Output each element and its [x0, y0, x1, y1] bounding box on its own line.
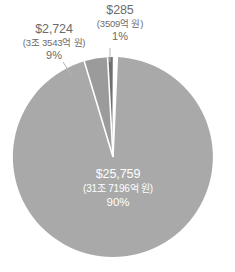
- callout-1-percent: 1%: [73, 30, 167, 43]
- callout-9-percent: 9%: [6, 49, 102, 62]
- pie-chart: $2,724 (3조 3543억 원) 9% $285 (3509억 원) 1%…: [0, 0, 235, 272]
- callout-1-amount-krw: (3509억 원): [73, 18, 167, 30]
- callout-slice-1: $285 (3509억 원) 1%: [73, 3, 167, 43]
- inner-label-slice-90: $25,759 (31조 7196억 원) 90%: [48, 167, 188, 210]
- inner-90-amount-krw: (31조 7196억 원): [48, 183, 188, 196]
- callout-1-amount: $285: [73, 3, 167, 18]
- inner-90-percent: 90%: [48, 195, 188, 209]
- inner-90-amount: $25,759: [48, 167, 188, 183]
